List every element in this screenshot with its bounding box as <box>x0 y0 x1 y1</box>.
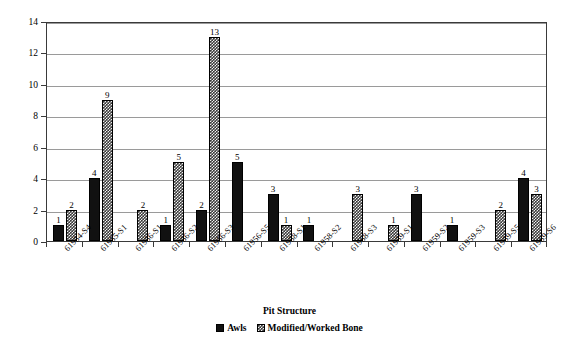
y-tick-label: 4 <box>33 174 38 184</box>
legend-label: Modified/Worked Bone <box>268 323 363 333</box>
bar-value-label: 1 <box>274 215 299 225</box>
legend-label: Awls <box>227 323 246 333</box>
bar-value-label: 9 <box>95 90 120 100</box>
chart-legend: AwlsModified/Worked Bone <box>0 322 579 333</box>
y-tick-label: 8 <box>33 111 38 121</box>
legend-item[interactable]: Awls <box>216 323 246 333</box>
x-axis-labels: 61954-S461955-S161956-S161956-S261956-S3… <box>0 244 579 302</box>
bar-awls <box>196 210 207 241</box>
bar-value-label: 2 <box>59 200 84 210</box>
bar-value-label: 2 <box>488 200 513 210</box>
bar-value-label: 13 <box>202 27 227 37</box>
bars-layer: 124921521353113131243 <box>47 23 546 241</box>
bar-value-label: 4 <box>511 168 536 178</box>
checkered-swatch <box>257 324 265 332</box>
legend-item[interactable]: Modified/Worked Bone <box>257 323 363 333</box>
bar-value-label: 5 <box>225 152 250 162</box>
bar-awls <box>411 194 422 241</box>
y-tick-label: 10 <box>29 80 39 90</box>
x-axis-title: Pit Structure <box>0 306 579 316</box>
bar-modified-worked-bone <box>102 100 113 241</box>
solid-black-swatch <box>216 324 224 332</box>
bar-value-label: 5 <box>166 152 191 162</box>
bar-value-label: 2 <box>130 200 155 210</box>
plot-area: 124921521353113131243 <box>46 22 547 242</box>
bar-modified-worked-bone <box>209 37 220 241</box>
bar-value-label: 3 <box>524 184 549 194</box>
bar-value-label: 1 <box>381 215 406 225</box>
bar-value-label: 3 <box>345 184 370 194</box>
bar-modified-worked-bone <box>173 162 184 241</box>
bar-value-label: 3 <box>404 184 429 194</box>
bar-awls <box>53 225 64 241</box>
y-axis-ticks: 02468101214 <box>0 22 46 242</box>
y-tick-label: 6 <box>33 143 38 153</box>
bar-value-label: 3 <box>261 184 286 194</box>
y-tick-label: 14 <box>29 17 39 27</box>
y-tick-label: 12 <box>29 48 39 58</box>
bar-chart-figure: Quantity 02468101214 1249215213531131312… <box>0 0 579 340</box>
y-tick-label: 2 <box>33 206 38 216</box>
